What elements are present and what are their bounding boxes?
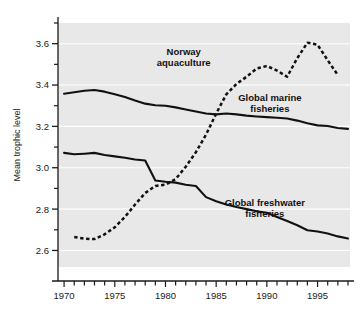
y-axis-label: Mean trophic level xyxy=(12,108,22,181)
trophic-level-line-chart: 2.62.83.03.23.43.61970197519801985199019… xyxy=(0,0,364,314)
y-tick-label: 3.4 xyxy=(36,79,49,90)
x-tick-label: 1970 xyxy=(54,290,75,301)
y-axis-title: Mean trophic level xyxy=(12,108,22,181)
y-tick-label: 3.2 xyxy=(36,121,49,132)
svg-text:fisheries: fisheries xyxy=(250,103,289,114)
x-tick-label: 1980 xyxy=(155,290,176,301)
y-tick-label: 3.6 xyxy=(36,38,49,49)
x-tick-label: 1995 xyxy=(307,290,328,301)
y-tick-label: 3.0 xyxy=(36,162,49,173)
y-tick-label: 2.6 xyxy=(36,245,49,256)
svg-text:Global marine: Global marine xyxy=(238,92,301,103)
x-tick-label: 1990 xyxy=(256,290,277,301)
x-tick-label: 1975 xyxy=(104,290,125,301)
svg-text:aquaculture: aquaculture xyxy=(157,57,211,68)
chart-figure: 2.62.83.03.23.43.61970197519801985199019… xyxy=(0,0,364,314)
svg-text:Norway: Norway xyxy=(167,46,202,57)
y-tick-label: 2.8 xyxy=(36,204,49,215)
svg-text:Global freshwater: Global freshwater xyxy=(225,197,306,208)
svg-text:fisheries: fisheries xyxy=(245,208,284,219)
x-tick-label: 1985 xyxy=(206,290,227,301)
